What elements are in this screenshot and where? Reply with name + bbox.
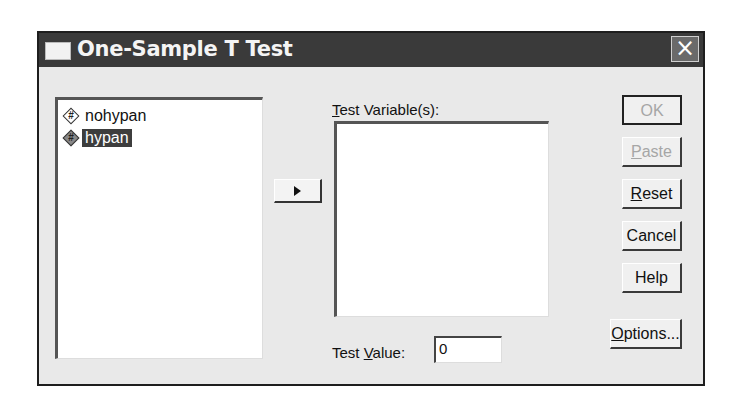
test-variables-list[interactable] — [334, 121, 549, 317]
title-bar[interactable]: One-Sample T Test × — [39, 33, 703, 67]
cancel-button[interactable]: Cancel — [622, 221, 682, 251]
help-button[interactable]: Help — [622, 263, 682, 293]
numeric-scale-icon: # — [62, 107, 80, 125]
variable-item-hypan[interactable]: # hypan — [62, 127, 132, 149]
window-icon — [45, 42, 71, 60]
variable-label: hypan — [82, 129, 132, 147]
test-variables-label: Test Variable(s): — [332, 101, 439, 118]
one-sample-t-test-dialog: One-Sample T Test × # nohypan # hypan Te… — [37, 31, 705, 386]
dialog-title: One-Sample T Test — [77, 37, 293, 61]
right-arrow-icon — [294, 186, 301, 196]
numeric-scale-icon: # — [62, 129, 80, 147]
variable-item-nohypan[interactable]: # nohypan — [62, 105, 149, 127]
paste-button[interactable]: Paste — [622, 137, 682, 167]
options-button[interactable]: Options... — [610, 319, 682, 349]
move-to-test-variables-button[interactable] — [274, 179, 322, 203]
test-value-label: Test Value: — [332, 344, 405, 361]
close-button[interactable]: × — [671, 36, 699, 62]
close-icon: × — [675, 34, 695, 62]
source-variable-list[interactable]: # nohypan # hypan — [55, 97, 263, 359]
test-value-input[interactable]: 0 — [434, 336, 502, 363]
reset-button[interactable]: Reset — [622, 179, 682, 209]
variable-label: nohypan — [82, 107, 149, 125]
ok-button[interactable]: OK — [622, 95, 682, 125]
